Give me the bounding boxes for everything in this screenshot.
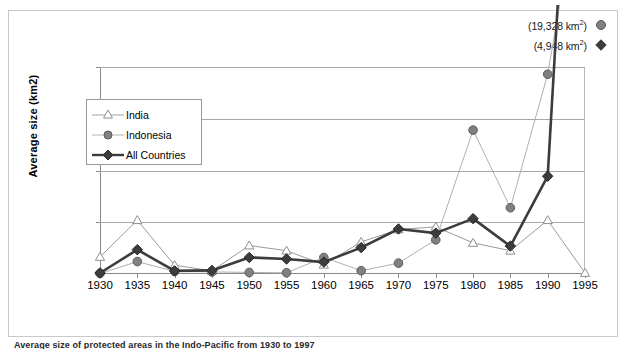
diamond-filled-icon [91, 146, 125, 164]
chart-screenshot: (19,328 km2) (4,948 km2) Average size (k… [0, 0, 627, 349]
diamond-filled-icon [592, 36, 610, 54]
legend-item-indonesia: Indonesia [91, 125, 197, 145]
x-tick-mark [175, 274, 176, 278]
x-tick-mark [361, 274, 362, 278]
annotation-label-all-countries: (4,948 km2) [534, 38, 587, 52]
figure-caption: Average size of protected areas in the I… [14, 340, 614, 349]
annotation-row-indonesia: (19,328 km2) [430, 16, 610, 33]
legend-item-india: India [91, 105, 197, 125]
x-tick-mark [436, 274, 437, 278]
x-tick-mark [287, 274, 288, 278]
offscale-annotations: (19,328 km2) (4,948 km2) [430, 16, 610, 56]
x-tick-label: 1995 [562, 279, 608, 291]
x-tick-mark [100, 274, 101, 278]
x-tick-mark [510, 274, 511, 278]
gridline [100, 222, 585, 223]
y-tick-mark [96, 222, 100, 223]
y-tick-mark [96, 67, 100, 68]
x-tick-mark [324, 274, 325, 278]
x-tick-mark [548, 274, 549, 278]
circle-filled-icon [592, 16, 610, 34]
x-tick-mark [212, 274, 213, 278]
x-tick-mark [473, 274, 474, 278]
x-tick-mark [137, 274, 138, 278]
x-tick-mark [249, 274, 250, 278]
annotation-row-all-countries: (4,948 km2) [430, 36, 610, 53]
legend-label-all-countries: All Countries [125, 149, 186, 161]
x-tick-mark [398, 274, 399, 278]
y-axis-title: Average size (km2) [27, 31, 39, 221]
y-tick-mark [96, 171, 100, 172]
annotation-label-indonesia: (19,328 km2) [528, 18, 587, 32]
gridline [100, 67, 585, 68]
circle-filled-icon [91, 126, 125, 144]
legend-label-indonesia: Indonesia [125, 129, 172, 141]
chart-legend: India Indonesia All Countries [86, 99, 202, 165]
legend-item-all-countries: All Countries [91, 145, 197, 165]
x-tick-mark [585, 274, 586, 278]
legend-label-india: India [125, 109, 149, 121]
gridline [100, 171, 585, 172]
triangle-open-icon [91, 106, 125, 124]
